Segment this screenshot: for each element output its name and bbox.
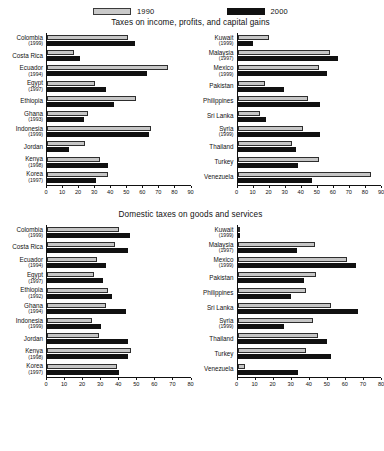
bar-2000: [47, 56, 80, 61]
bar-2000: [47, 117, 84, 122]
category-name: Philippines: [203, 290, 233, 296]
bar-1990: [238, 272, 317, 277]
bar-2000: [238, 132, 321, 137]
bar-2000: [47, 102, 114, 107]
category-label: Mexico(1999): [193, 255, 237, 270]
value-axis: 0102030405060708090: [193, 185, 382, 198]
bar-1990: [238, 141, 292, 146]
bar-1990: [47, 364, 117, 369]
bar-1990: [238, 111, 260, 116]
axis-tick: [301, 186, 302, 189]
chart-income-right: Kuwait(1999)Malaysia(1997)Mexico(1999)Pa…: [191, 33, 382, 198]
bar-1990: [238, 172, 372, 177]
bar-2000: [238, 178, 313, 183]
bars-area: [46, 33, 191, 185]
category-label: Malaysia(1997): [193, 240, 237, 255]
bar-1990: [238, 227, 240, 232]
category-year: (1997): [219, 56, 234, 61]
chart-goods-right: Kuwait(1999)Malaysia(1997)Mexico(1999)Pa…: [191, 225, 382, 390]
value-axis: 01020304050607080: [2, 377, 191, 390]
category-label: Jordan: [2, 331, 46, 346]
bar-group: [238, 362, 382, 377]
bar-2000: [47, 263, 106, 268]
bar-1990: [238, 242, 315, 247]
panel-income-taxes: Taxes on income, profits, and capital ga…: [0, 18, 381, 198]
axis-tick-label: 60: [342, 381, 348, 387]
legend-label-2000: 2000: [271, 7, 289, 16]
bar-2000: [238, 294, 292, 299]
category-label: Philippines: [193, 94, 237, 109]
bar-group: [47, 362, 191, 377]
axis-tick-label: 60: [139, 189, 145, 195]
legend-entry-2000: 2000: [227, 7, 289, 16]
chart-legend: 1990 2000: [0, 0, 381, 18]
bar-2000: [238, 163, 299, 168]
category-label: Syria(1999): [193, 124, 237, 139]
category-name: Turkey: [214, 351, 233, 357]
axis-tick: [174, 186, 175, 189]
axis-tick: [172, 378, 173, 381]
axis-tick: [327, 378, 328, 381]
category-name: Jordan: [24, 144, 43, 150]
axis-tick-label: 40: [115, 381, 121, 387]
bar-2000: [47, 87, 106, 92]
axis-scale: 01020304050607080: [237, 377, 382, 390]
bar-2000: [47, 147, 69, 152]
bar-2000: [238, 117, 267, 122]
bar-2000: [238, 370, 299, 375]
axis-tick: [154, 378, 155, 381]
value-axis: 01020304050607080: [193, 377, 382, 390]
category-label: Indonesia(1999): [2, 124, 46, 139]
category-label: Jordan: [2, 139, 46, 154]
bar-1990: [47, 35, 128, 40]
category-label: Ecuador(1994): [2, 63, 46, 78]
bar-2000: [47, 233, 130, 238]
bar-1990: [47, 333, 99, 338]
category-label: Thailand: [193, 331, 237, 346]
bar-group: [47, 124, 191, 139]
axis-tick: [126, 186, 127, 189]
bar-group: [238, 346, 382, 361]
value-axis: 0102030405060708090: [2, 185, 191, 198]
bar-1990: [47, 348, 131, 353]
category-name: Thailand: [209, 144, 233, 150]
plot-area: Colombia(1999)Costa RicaEcuador(1994)Egy…: [2, 225, 191, 377]
bar-1990: [47, 303, 106, 308]
bar-1990: [238, 50, 330, 55]
bars-area: [46, 225, 191, 377]
panel-body-income-taxes: Colombia(1999)Costa RicaEcuador(1994)Egy…: [0, 33, 381, 198]
category-label: Egypt(1997): [2, 79, 46, 94]
category-label: Ethiopia(1992): [2, 286, 46, 301]
axis-tick: [62, 186, 63, 189]
bar-2000: [47, 278, 103, 283]
axis-tick: [237, 186, 238, 189]
bar-2000: [238, 233, 240, 238]
axis-tick-label: 10: [251, 381, 257, 387]
axis-scale: 01020304050607080: [46, 377, 191, 390]
axis-tick-label: 70: [169, 381, 175, 387]
bar-2000: [47, 370, 119, 375]
plot-area: Kuwait(1999)Malaysia(1997)Mexico(1999)Pa…: [193, 33, 382, 185]
axis-tick-label: 70: [155, 189, 161, 195]
axis-tick-label: 50: [314, 189, 320, 195]
axis-tick: [118, 378, 119, 381]
axis-tick-label: 30: [282, 189, 288, 195]
axis-tick: [333, 186, 334, 189]
axis-tick: [46, 186, 47, 189]
bar-1990: [238, 318, 313, 323]
category-year: (1997): [28, 279, 43, 284]
category-year: (1993): [28, 117, 43, 122]
bar-group: [238, 33, 382, 48]
bar-1990: [47, 65, 168, 70]
axis-tick: [253, 186, 254, 189]
category-year: (1998): [28, 355, 43, 360]
bar-group: [47, 286, 191, 301]
category-name: Ethiopia: [20, 98, 43, 104]
axis-tick-label: 80: [171, 189, 177, 195]
category-label: Malaysia(1997): [193, 48, 237, 63]
axis-tick-label: 60: [330, 189, 336, 195]
bar-group: [238, 170, 382, 185]
category-axis: Colombia(1999)Costa RicaEcuador(1994)Egy…: [2, 225, 46, 377]
axis-tick-label: 20: [75, 189, 81, 195]
axis-spacer: [2, 185, 46, 198]
